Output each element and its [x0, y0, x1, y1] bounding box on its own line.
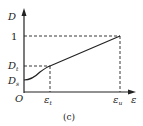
y-axis-label: D — [7, 11, 16, 22]
y-tick-dt: Dt — [7, 60, 19, 72]
y-tick-ds: Ds — [7, 75, 19, 87]
x-tick-eu: εu — [113, 94, 122, 106]
figure-caption: (c) — [63, 112, 75, 122]
origin-label: O — [15, 93, 23, 104]
y-tick-one: 1 — [11, 31, 17, 42]
y-axis-arrow-icon — [22, 8, 27, 16]
x-tick-et: εt — [44, 94, 52, 106]
damage-strain-chart: D 1 Dt Ds O εt εu ε (c) — [0, 0, 143, 126]
damage-curve — [24, 36, 120, 80]
x-axis-label: ε — [131, 94, 136, 105]
guide-lines — [24, 36, 120, 92]
